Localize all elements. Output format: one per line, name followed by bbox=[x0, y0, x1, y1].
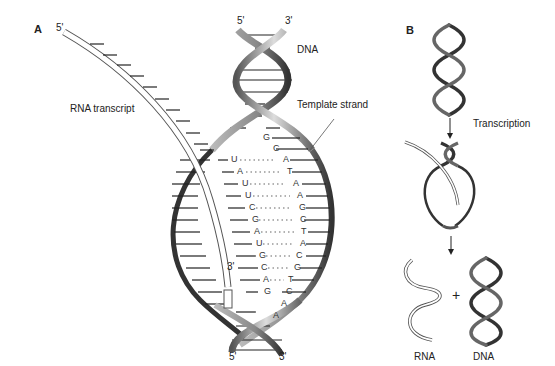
rna-label: RNA bbox=[414, 352, 435, 362]
rna-base: U bbox=[231, 155, 238, 164]
rna-base: A bbox=[263, 275, 269, 284]
plus-sign: + bbox=[452, 288, 460, 302]
template-base: G bbox=[299, 203, 306, 212]
bottom-5prime-label: 5' bbox=[229, 352, 236, 362]
rna-5prime-label: 5' bbox=[56, 23, 63, 33]
template-base: G bbox=[294, 263, 301, 272]
rna-base: G bbox=[259, 251, 266, 260]
top-3prime-label: 3' bbox=[285, 16, 292, 26]
template-base: A bbox=[293, 179, 299, 188]
template-base: T bbox=[288, 275, 294, 284]
panel-b-transcription-bubble bbox=[405, 142, 474, 228]
transcription-label: Transcription bbox=[473, 119, 530, 129]
template-base: G bbox=[263, 133, 270, 142]
arrow-down-1 bbox=[447, 118, 453, 139]
template-base: A bbox=[300, 239, 306, 248]
rna-base: U bbox=[242, 179, 249, 188]
panel-b-dna-helix-bottom bbox=[471, 258, 501, 345]
panel-b-dna-helix-top bbox=[434, 25, 464, 115]
rna-base: C bbox=[261, 263, 268, 272]
template-strand-pointer bbox=[310, 119, 334, 150]
template-base: C bbox=[286, 287, 293, 296]
panel-b-rna bbox=[406, 260, 440, 340]
rna-base: A bbox=[254, 227, 260, 236]
dna-label: DNA bbox=[297, 45, 318, 55]
top-5prime-label: 5' bbox=[237, 16, 244, 26]
panel-a-label: A bbox=[34, 24, 42, 35]
rna-base: U bbox=[256, 239, 263, 248]
dna-label-b: DNA bbox=[473, 352, 494, 362]
template-strand-label: Template strand bbox=[297, 100, 368, 110]
template-base: A bbox=[281, 299, 287, 308]
template-base: C bbox=[300, 215, 307, 224]
rna-transcript-strand bbox=[64, 32, 232, 308]
template-base: T bbox=[301, 227, 307, 236]
rna-base: U bbox=[245, 191, 252, 200]
template-base: A bbox=[283, 155, 289, 164]
template-base: A bbox=[297, 191, 303, 200]
rna-3prime-label: 3' bbox=[227, 262, 234, 272]
panel-b-label: B bbox=[406, 25, 414, 36]
rna-base: G bbox=[252, 215, 259, 224]
rna-base: A bbox=[237, 167, 243, 176]
bottom-3prime-label: 3' bbox=[279, 352, 286, 362]
template-base: A bbox=[273, 311, 279, 320]
rna-transcript-label: RNA transcript bbox=[70, 104, 134, 114]
arrow-down-2 bbox=[448, 236, 454, 255]
rna-base: C bbox=[249, 203, 256, 212]
template-base: C bbox=[296, 251, 303, 260]
template-base: G bbox=[264, 287, 271, 296]
template-base: T bbox=[287, 167, 293, 176]
template-base: C bbox=[273, 144, 280, 153]
